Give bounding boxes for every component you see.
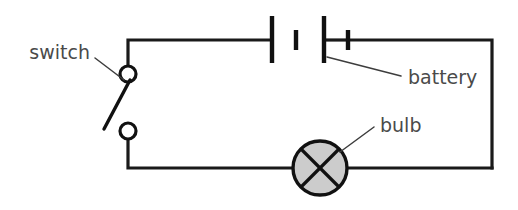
label-bulb: bulb <box>380 114 421 136</box>
label-switch: switch <box>29 41 90 63</box>
switch-terminal-bottom[interactable] <box>120 123 136 139</box>
leader-line-switch <box>95 58 124 80</box>
wire-bulb-to-switch <box>128 139 293 168</box>
bulb-symbol <box>293 141 347 195</box>
leader-line-battery <box>327 57 401 76</box>
component-labels: switch battery bulb <box>29 41 477 136</box>
leader-line-bulb <box>340 127 374 152</box>
circuit-svg: switch battery bulb <box>0 0 518 210</box>
wire-battery-to-bulb-right <box>348 40 492 168</box>
circuit-diagram: switch battery bulb <box>0 0 518 210</box>
label-battery: battery <box>408 66 477 88</box>
wire-switch-to-battery <box>128 40 272 66</box>
leader-lines <box>95 57 401 152</box>
